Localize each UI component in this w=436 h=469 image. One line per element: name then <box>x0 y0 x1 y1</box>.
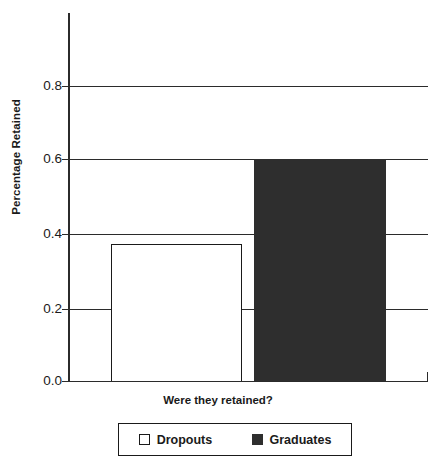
x-axis-title: Were they retained? <box>0 394 436 406</box>
y-tick-label: 0.4 <box>26 227 62 241</box>
y-axis-title: Percentage Retained <box>10 92 22 222</box>
x-axis-right-cap <box>427 372 429 381</box>
legend-label: Dropouts <box>157 433 213 447</box>
chart-legend: Dropouts Graduates <box>118 423 352 456</box>
x-axis-baseline <box>68 381 428 383</box>
bar-chart: Percentage Retained 0.8 0.6 0.4 0.2 0.0 … <box>0 0 436 469</box>
legend-label: Graduates <box>270 433 332 447</box>
y-tick-label: 0.8 <box>26 79 62 93</box>
bar-dropouts[interactable] <box>111 244 242 382</box>
legend-item-dropouts[interactable]: Dropouts <box>139 433 213 447</box>
legend-swatch-open-square-icon <box>139 434 150 445</box>
y-tick-label: 0.2 <box>26 302 62 316</box>
gridline-0.8 <box>68 86 428 87</box>
y-axis-spine <box>68 13 70 382</box>
y-tick-label: 0.0 <box>26 374 62 388</box>
legend-swatch-filled-square-icon <box>252 434 263 445</box>
legend-item-graduates[interactable]: Graduates <box>252 433 332 447</box>
bar-graduates[interactable] <box>254 159 386 382</box>
y-tick-label: 0.6 <box>26 152 62 166</box>
